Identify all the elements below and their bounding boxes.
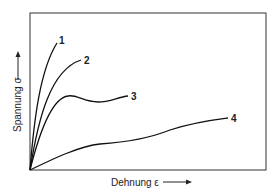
curve-4 <box>30 118 228 170</box>
curve-label-1: 1 <box>59 35 65 46</box>
plot-frame <box>30 13 266 170</box>
stress-strain-chart: 1 2 3 4 Dehnung ε Spannung σ <box>0 0 278 193</box>
curve-label-2: 2 <box>84 55 90 66</box>
x-axis-label: Dehnung ε <box>111 177 159 188</box>
curve-1 <box>30 43 57 170</box>
curve-2 <box>30 60 81 170</box>
y-axis-label: Spannung σ <box>12 77 23 132</box>
curve-label-3: 3 <box>131 91 137 102</box>
x-axis-arrow-icon <box>186 180 192 185</box>
y-axis-arrow-icon <box>16 51 21 57</box>
curve-label-4: 4 <box>231 113 237 124</box>
